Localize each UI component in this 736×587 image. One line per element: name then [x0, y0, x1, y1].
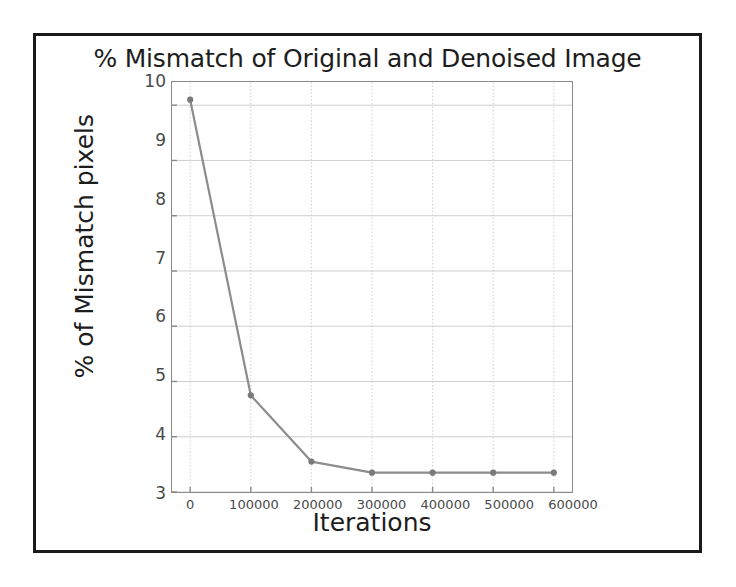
y-axis-tick-labels: 10 9 8 7 6 5 4 3	[124, 81, 166, 493]
data-point	[551, 470, 557, 476]
data-point	[490, 470, 496, 476]
y-tick-label: 6	[126, 306, 166, 326]
vertical-gridlines	[190, 82, 554, 492]
plot-area	[171, 81, 573, 493]
data-point	[369, 470, 375, 476]
chart-title: % Mismatch of Original and Denoised Imag…	[36, 44, 699, 73]
x-axis-label: Iterations	[171, 508, 573, 537]
y-tick-label: 8	[126, 189, 166, 209]
y-tick-label: 7	[126, 248, 166, 268]
y-tick-label: 5	[126, 365, 166, 385]
y-tick-label: 10	[126, 71, 166, 91]
data-point	[187, 97, 193, 103]
y-tick-label: 4	[126, 424, 166, 444]
data-point	[308, 459, 314, 465]
y-tick-label: 9	[126, 130, 166, 150]
y-tick-label: 3	[126, 483, 166, 503]
line-chart-canvas	[172, 82, 572, 492]
figure-frame: % Mismatch of Original and Denoised Imag…	[33, 33, 702, 553]
data-markers	[187, 97, 557, 476]
data-point	[248, 392, 254, 398]
y-axis-label: % of Mismatch pixels	[70, 119, 99, 379]
data-point	[430, 470, 436, 476]
